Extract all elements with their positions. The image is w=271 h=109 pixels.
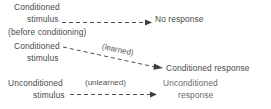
arrow-unconditioned-response — [70, 92, 157, 98]
row2-annotation-learned: (learned) — [101, 42, 134, 57]
row3-response-line2: response — [178, 90, 213, 100]
row2-response: Conditioned response — [166, 63, 249, 73]
row1-response: No response — [155, 14, 204, 24]
row3-response-line1: Unconditioned — [163, 78, 218, 88]
row2-stimulus-line2: stimulus — [27, 53, 59, 63]
row3-stimulus-line2: stimulus — [33, 90, 65, 100]
row1-stimulus-line1: Conditioned — [14, 2, 60, 12]
row3-annotation-unlearned: (unlearned) — [85, 78, 126, 87]
row1-stimulus-line2: stimulus — [27, 14, 59, 24]
row2-stimulus-line1: Conditioned — [14, 41, 60, 51]
row1-stimulus-line3: (before conditioning) — [8, 27, 86, 37]
row3-stimulus-line1: Unconditioned — [8, 78, 63, 88]
conditioning-diagram: Conditioned stimulus (before conditionin… — [0, 0, 271, 109]
arrow-no-response — [62, 20, 152, 26]
